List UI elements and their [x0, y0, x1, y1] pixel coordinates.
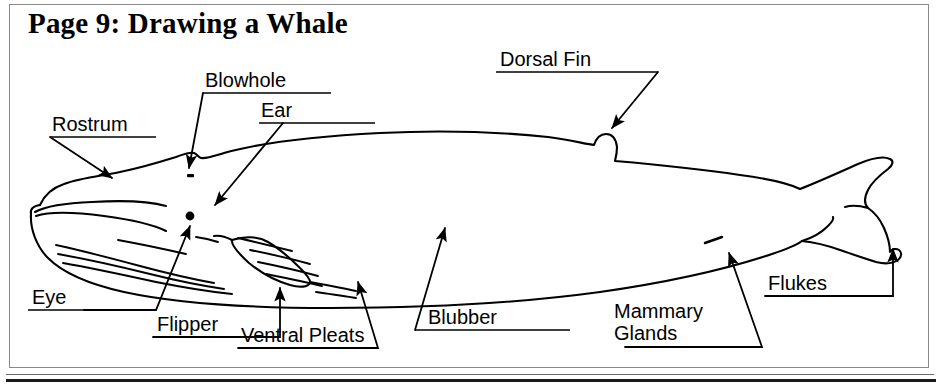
label-flukes: Flukes: [768, 272, 827, 295]
label-mammary-glands-line1: Mammary: [614, 300, 703, 322]
label-ear: Ear: [261, 99, 292, 122]
label-eye: Eye: [32, 286, 66, 309]
leader-blowhole: [189, 93, 203, 168]
whale-ventral-pleats: [56, 237, 356, 298]
whale-tail-flukes: [800, 158, 901, 264]
whale-body-outline: [31, 132, 802, 308]
label-ventral-pleats: Ventral Pleats: [241, 324, 364, 347]
label-flipper: Flipper: [157, 313, 218, 336]
leader-eye: [84, 226, 190, 310]
label-rostrum: Rostrum: [52, 113, 128, 136]
label-blubber: Blubber: [428, 306, 497, 329]
leader-rostrum: [50, 137, 112, 178]
eye-mark: [186, 212, 195, 221]
leader-ear: [215, 123, 283, 205]
label-dorsal-fin: Dorsal Fin: [500, 48, 591, 71]
whale-illustration: [0, 0, 942, 390]
whale-diagram-page: Page 9: Drawing a Whale: [0, 0, 942, 390]
mammary-slit-mark: [705, 237, 722, 243]
label-mammary-glands: Mammary Glands: [614, 300, 703, 344]
blowhole-mark: [187, 174, 194, 177]
bottom-rule: [6, 379, 936, 382]
leader-dorsal-fin: [612, 72, 658, 128]
label-mammary-glands-line2: Glands: [614, 322, 677, 344]
label-blowhole: Blowhole: [205, 69, 286, 92]
bottom-rule-thin: [6, 374, 934, 375]
